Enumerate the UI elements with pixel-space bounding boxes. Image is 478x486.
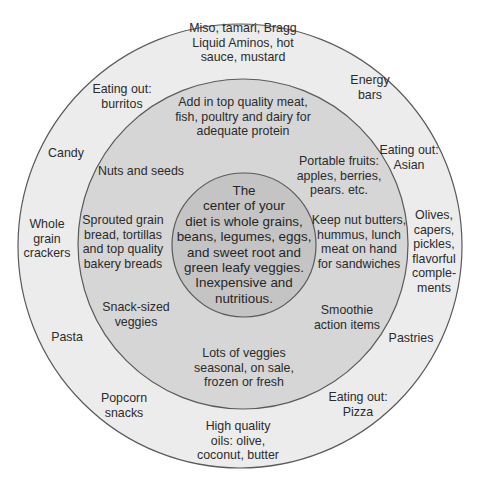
outer-label-olives: Olives, capers, pickles, flavorful compl… [412,208,456,296]
outer-label-pizza: Eating out: Pizza [328,390,387,419]
outer-label-popcorn: Popcorn snacks [101,391,147,420]
outer-label-burritos: Eating out: burritos [92,82,151,111]
middle-label-lots-veggies: Lots of veggies seasonal, on sale, froze… [194,346,294,390]
outer-label-crackers: Whole grain crackers [24,217,71,261]
outer-label-pastries: Pastries [389,331,434,346]
middle-label-protein: Add in top quality meat, fish, poultry a… [175,95,311,139]
outer-label-oils: High quality oils: olive, coconut, butte… [197,419,279,463]
middle-label-sandwiches: Keep nut butters, hummus, lunch meat on … [312,213,406,271]
middle-label-smoothie: Smoothie action items [314,303,380,332]
center-text: The center of your diet is whole grains,… [177,183,312,306]
outer-label-asian: Eating out: Asian [379,143,438,172]
outer-label-candy: Candy [48,146,84,161]
middle-label-fruits: Portable fruits: apples, berries, pears.… [297,154,382,198]
middle-label-snack-veggies: Snack-sized veggies [102,300,170,329]
outer-label-pasta: Pasta [51,330,83,345]
outer-label-energy-bars: Energy bars [350,73,389,102]
middle-label-breads: Sprouted grain bread, tortillas and top … [82,213,163,271]
outer-label-condiments: Miso, tamari, Bragg Liquid Aminos, hot s… [189,21,296,65]
middle-label-nuts: Nuts and seeds [98,164,184,179]
